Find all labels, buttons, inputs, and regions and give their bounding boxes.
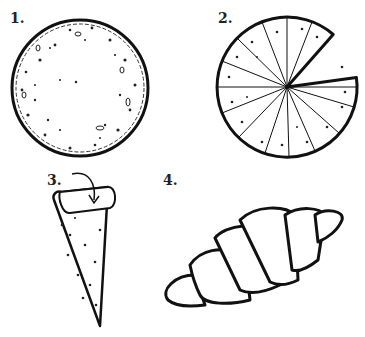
- croissant-icon: [166, 208, 342, 306]
- page-number-fragment: [178, 330, 202, 337]
- whole-dough-icon: [12, 20, 148, 156]
- illustration-canvas: [0, 0, 365, 337]
- cut-dough-wedges-icon: [217, 17, 357, 157]
- rolling-wedge-icon: [53, 173, 115, 326]
